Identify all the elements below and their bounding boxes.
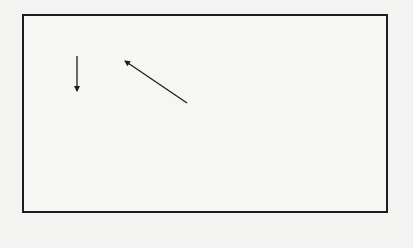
relationship-connectors (0, 0, 413, 248)
